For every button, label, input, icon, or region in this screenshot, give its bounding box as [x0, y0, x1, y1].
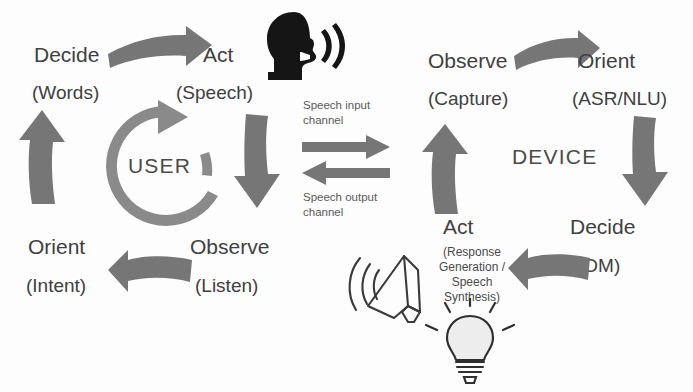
speech-output-channel-line1: Speech output [303, 190, 398, 204]
user-stage-observe-label: Observe [190, 236, 269, 258]
device-stage-observe-label: Observe [428, 50, 507, 72]
speaking-head-icon [258, 8, 350, 90]
user-stage-observe-detail: (Listen) [195, 276, 258, 296]
user-arrow-decide-to-act [106, 24, 214, 74]
user-arrow-act-to-observe [232, 112, 284, 212]
device-stage-decide-label: Decide [570, 216, 635, 238]
lightbulb-icon [424, 298, 516, 390]
device-stage-orient-detail: (ASR/NLU) [572, 89, 667, 109]
user-stage-decide-detail: (Words) [32, 83, 99, 103]
user-loop-center-label: USER [128, 155, 191, 177]
device-stage-observe-detail: (Capture) [428, 89, 508, 109]
device-arrow-decide-to-act [506, 246, 592, 294]
speech-output-channel-line2: channel [303, 205, 398, 219]
device-loop-center-label: DEVICE [512, 146, 597, 168]
user-stage-orient-detail: (Intent) [26, 276, 86, 296]
user-arrow-orient-to-decide [16, 108, 68, 208]
user-stage-act-label: Act [203, 44, 233, 66]
speech-input-channel-line2: channel [303, 113, 393, 127]
speech-input-channel-arrow [300, 134, 392, 160]
user-arrow-observe-to-orient [106, 248, 194, 296]
device-stage-act-label: Act [443, 216, 473, 238]
speech-output-channel-arrow [300, 160, 392, 186]
device-arrow-act-to-observe [419, 122, 471, 216]
user-stage-orient-label: Orient [28, 236, 85, 258]
speech-input-channel-line1: Speech input [303, 98, 393, 112]
user-stage-decide-label: Decide [34, 44, 99, 66]
device-stage-orient-label: Orient [578, 50, 635, 72]
diagram-canvas: Decide (Words) Act (Speech) USER Orient … [0, 0, 693, 392]
device-arrow-orient-to-decide [620, 114, 672, 210]
